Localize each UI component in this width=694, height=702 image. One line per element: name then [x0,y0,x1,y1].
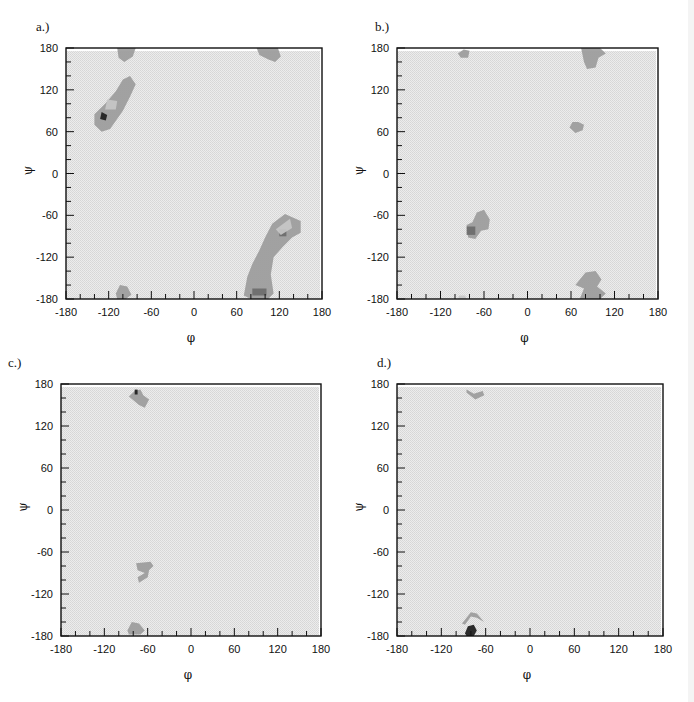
x-tick-label: 180 [654,643,672,655]
panel-d: d.) -180-120-60060120180-180-120-6006012… [0,0,694,702]
x-tick-label: -180 [386,643,408,655]
y-tick-label: 0 [383,504,389,516]
y-tick-label: 120 [371,420,389,432]
y-tick-label: 60 [377,462,389,474]
x-axis-label-phi: φ [523,668,531,682]
x-tick-label: 0 [527,643,533,655]
x-tick-label: 120 [609,643,627,655]
y-tick-label: -180 [367,630,389,642]
y-axis-label-psi: ψ [352,502,366,511]
x-tick-label: -60 [478,643,494,655]
x-tick-label: 60 [568,643,580,655]
plot-d: -180-120-60060120180-180-120-60060120180… [0,0,694,702]
y-tick-label: -120 [367,588,389,600]
page-edge-strip [688,0,694,702]
y-tick-label: 180 [371,378,389,390]
y-tick-label: -60 [373,546,389,558]
plot-background [397,387,661,636]
x-tick-label: -120 [430,643,452,655]
